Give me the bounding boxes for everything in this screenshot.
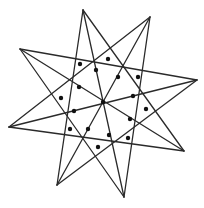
intersection-dot — [77, 85, 81, 89]
intersection-dot — [68, 127, 72, 131]
star-edge-T2-T7 — [20, 49, 197, 80]
intersection-dot — [107, 133, 111, 137]
intersection-dot — [59, 96, 63, 100]
intersection-dot — [96, 145, 100, 149]
intersection-dot — [78, 62, 82, 66]
intersection-dot — [116, 75, 120, 79]
star-diagram — [0, 0, 204, 208]
intersection-dot — [131, 94, 135, 98]
intersection-dot — [94, 68, 98, 72]
intersection-dot — [128, 117, 132, 121]
intersection-dot — [144, 107, 148, 111]
intersection-dot — [136, 75, 140, 79]
intersection-dot — [126, 136, 130, 140]
intersection-dot — [106, 57, 110, 61]
intersection-dot — [72, 109, 76, 113]
intersection-dot — [101, 100, 105, 104]
intersection-dot — [86, 127, 90, 131]
